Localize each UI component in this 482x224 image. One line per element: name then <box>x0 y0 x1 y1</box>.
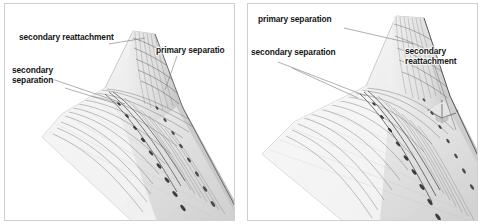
leader-secondary-separation-b <box>292 68 358 98</box>
figure-container: secondary reattachment secondary separat… <box>0 0 482 224</box>
label-secondary-separation: secondary separation <box>251 48 336 58</box>
label-primary-separation: primary separation <box>258 15 332 25</box>
right-visualization-panel: y z x primary separation secondary separ… <box>247 3 478 221</box>
right-flow-visualization: y z x <box>248 4 477 220</box>
label-secondary-reattachment: secondary reattachment <box>19 33 114 43</box>
right-wing-surface-graphic: y z x <box>248 4 477 220</box>
label-secondary-reattachment: secondary reattachment <box>405 47 456 67</box>
leader-secondary-separation-a <box>278 62 366 96</box>
left-visualization-panel: secondary reattachment secondary separat… <box>4 3 235 221</box>
label-secondary-separation: secondary separation <box>12 66 53 86</box>
label-primary-separation: primary separatio <box>156 46 225 56</box>
